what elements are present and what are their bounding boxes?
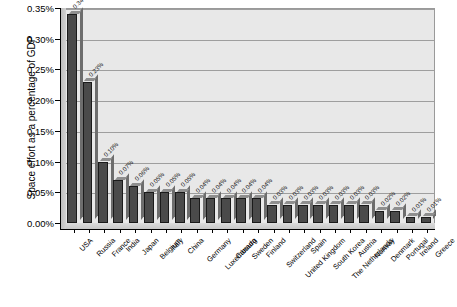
bar-value-label: 0.04% (225, 177, 242, 194)
bar-top-face (391, 207, 403, 210)
bar: 0.04% (190, 198, 203, 223)
bar: 0.10% (98, 162, 111, 223)
x-tick-mark (120, 229, 121, 233)
bar: 0.04% (206, 198, 219, 223)
bar: 0.01% (406, 217, 419, 223)
y-axis-line (60, 8, 61, 230)
bar-value-label: 0.04% (210, 177, 227, 194)
bar-front-face (329, 205, 339, 223)
bar-value-label: 0.04% (194, 177, 211, 194)
bar-front-face (129, 186, 139, 223)
bar-front-face (359, 205, 369, 223)
bar-value-label: 0.05% (179, 171, 196, 188)
bar-front-face (175, 192, 185, 223)
x-tick-mark (135, 229, 136, 233)
bar-value-label: 0.03% (317, 183, 334, 200)
x-tick-mark (289, 229, 290, 233)
x-tick-mark (74, 229, 75, 233)
bar-value-label: 0.02% (394, 189, 411, 206)
bar-top-face (192, 195, 204, 198)
bar: 0.02% (390, 211, 403, 223)
bar: 0.34% (67, 14, 80, 223)
bar-value-label: 0.03% (271, 183, 288, 200)
bar-value-label: 0.34% (71, 0, 88, 10)
bar: 0.03% (283, 205, 296, 223)
x-tick-mark (243, 229, 244, 233)
bar-value-label: 0.03% (333, 183, 350, 200)
bar: 0.03% (298, 205, 311, 223)
y-tick-label: 0.00% (8, 218, 54, 229)
x-tick-mark (366, 229, 367, 233)
bar-value-label: 0.23% (87, 60, 104, 77)
bar: 0.05% (144, 192, 157, 223)
x-axis-label-usa[interactable]: USA (77, 236, 94, 253)
y-tick-label: 0.20% (8, 95, 54, 106)
x-tick-mark (320, 229, 321, 233)
bar: 0.03% (313, 205, 326, 223)
bar-front-face (144, 192, 154, 223)
x-axis-label-china[interactable]: China (186, 236, 206, 256)
bar-front-face (406, 217, 416, 223)
x-tick-mark (412, 229, 413, 233)
x-tick-mark (197, 229, 198, 233)
x-tick-mark (381, 229, 382, 233)
bar: 0.03% (359, 205, 372, 223)
bar: 0.01% (421, 217, 434, 223)
bar: 0.05% (160, 192, 173, 223)
x-tick-mark (181, 229, 182, 233)
bar-front-face (98, 162, 108, 223)
y-tick-label: 0.25% (8, 64, 54, 75)
bar-top-face (99, 158, 111, 161)
bars-layer: 0.34%0.23%0.10%0.07%0.06%0.05%0.05%0.05%… (60, 8, 435, 230)
bar-value-label: 0.03% (287, 183, 304, 200)
bar-front-face (344, 205, 354, 223)
bar-front-face (83, 82, 93, 223)
bar: 0.04% (252, 198, 265, 223)
bar-value-label: 0.01% (410, 196, 427, 213)
bar-value-label: 0.05% (148, 171, 165, 188)
bar-value-label: 0.05% (164, 171, 181, 188)
bar: 0.03% (329, 205, 342, 223)
bar-front-face (190, 198, 200, 223)
x-axis-line (60, 229, 435, 230)
bar-value-label: 0.04% (241, 177, 258, 194)
bar: 0.03% (267, 205, 280, 223)
x-tick-mark (227, 229, 228, 233)
bar-value-label: 0.03% (364, 183, 381, 200)
x-tick-mark (212, 229, 213, 233)
bar-front-face (283, 205, 293, 223)
y-tick-label: 0.10% (8, 157, 54, 168)
bar-value-label: 0.07% (118, 159, 135, 176)
bar-value-label: 0.04% (256, 177, 273, 194)
bar-top-face (222, 195, 234, 198)
x-tick-mark (151, 229, 152, 233)
bar: 0.04% (236, 198, 249, 223)
bar-front-face (206, 198, 216, 223)
bar-value-label: 0.03% (348, 183, 365, 200)
bar-value-label: 0.10% (102, 140, 119, 157)
bar-top-face (315, 201, 327, 204)
bar-front-face (252, 198, 262, 223)
bar: 0.05% (175, 192, 188, 223)
bar: 0.02% (375, 211, 388, 223)
bar-front-face (375, 211, 385, 223)
x-tick-mark (274, 229, 275, 233)
bar-top-face (176, 189, 188, 192)
bar-front-face (221, 198, 231, 223)
bar: 0.04% (221, 198, 234, 223)
x-tick-mark (397, 229, 398, 233)
bar-top-face (268, 201, 280, 204)
y-tick-label: 0.30% (8, 34, 54, 45)
bar-front-face (160, 192, 170, 223)
bar: 0.03% (344, 205, 357, 223)
bar-front-face (267, 205, 277, 223)
x-tick-mark (166, 229, 167, 233)
bar: 0.23% (83, 82, 96, 223)
bar: 0.07% (113, 180, 126, 223)
bar-side-face (433, 210, 436, 220)
x-tick-mark (350, 229, 351, 233)
bar-front-face (421, 217, 431, 223)
y-tick-label: 0.05% (8, 187, 54, 198)
bar-front-face (67, 14, 77, 223)
